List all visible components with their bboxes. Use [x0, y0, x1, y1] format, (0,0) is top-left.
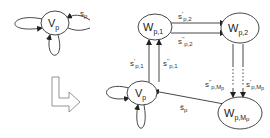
- label-sp2-dprime: s''p,2: [178, 36, 193, 47]
- diagram-canvas: sp Vp s'p,2 s''p,2 s'p,1 s''p,1: [0, 0, 270, 138]
- label-spmp-dprime: s''p,Mp: [205, 79, 224, 91]
- self-loop-bottom-edge: [49, 35, 60, 55]
- label-spmp-prime: s'p,Mp: [246, 79, 264, 91]
- bent-arrow-right-icon: [52, 77, 80, 112]
- self-loop-left-edge: [15, 18, 42, 29]
- edge-wpmp-vp: [154, 91, 224, 104]
- sp-edge-tail: [68, 28, 90, 30]
- sp-label: sp: [80, 9, 88, 19]
- label-sp1-dprime: s''p,1: [163, 58, 178, 69]
- diagram-svg: sp Vp s'p,2 s''p,2 s'p,1 s''p,1: [0, 0, 270, 138]
- vp-self-loop-left: [106, 86, 129, 99]
- right-graph: s'p,2 s''p,2 s'p,1 s''p,1 s''p,Mp s'p,Mp: [106, 11, 264, 129]
- left-graph: sp Vp: [15, 9, 90, 55]
- node-wp2: [221, 13, 259, 43]
- label-sp2-prime: s'p,2: [178, 11, 192, 22]
- label-sp1-prime: s'p,1: [130, 58, 144, 69]
- label-shat-p: ŝp: [180, 103, 188, 113]
- vp-self-loop-bottom: [137, 105, 145, 128]
